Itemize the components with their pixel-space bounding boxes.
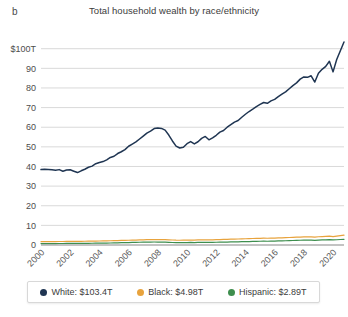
- x-tick-label: 2020: [317, 247, 338, 268]
- y-tick-label: 80: [26, 83, 36, 93]
- x-tick-label: 2016: [259, 247, 280, 268]
- chart-figure: b Total household wealth by race/ethnici…: [0, 0, 348, 317]
- legend-item-white[interactable]: White: $103.4T: [40, 288, 112, 297]
- x-tick-label: 2018: [288, 247, 309, 268]
- x-tick-label: 2006: [113, 247, 134, 268]
- y-tick-label: 70: [26, 103, 36, 113]
- chart-legend: White: $103.4T Black: $4.98T Hispanic: $…: [27, 281, 320, 303]
- gridlines: [41, 49, 344, 245]
- x-tick-label: 2012: [200, 247, 221, 268]
- legend-item-hispanic[interactable]: Hispanic: $2.89T: [228, 288, 307, 297]
- y-tick-label: 0: [31, 240, 36, 250]
- y-tick-label: 10: [26, 221, 36, 231]
- x-tick-label: 2002: [54, 247, 75, 268]
- x-tick-label: 2014: [230, 247, 251, 268]
- y-tick-label: 60: [26, 122, 36, 132]
- legend-swatch-black-icon: [137, 289, 144, 296]
- legend-swatch-white-icon: [40, 289, 47, 296]
- x-axis-tick-labels: 2000200220042006200820102012201420162018…: [25, 247, 338, 268]
- data-series-lines: [41, 42, 344, 244]
- x-tick-label: 2000: [25, 247, 46, 268]
- legend-label-hispanic: Hispanic: $2.89T: [239, 288, 307, 297]
- y-tick-label: 20: [26, 201, 36, 211]
- y-axis-tick-labels: 0102030405060708090$100T: [10, 44, 36, 250]
- y-tick-label: 40: [26, 162, 36, 172]
- x-tick-label: 2004: [84, 247, 105, 268]
- x-tick-label: 2010: [171, 247, 192, 268]
- y-tick-label: 30: [26, 181, 36, 191]
- y-tick-label: $100T: [10, 44, 36, 54]
- legend-label-white: White: $103.4T: [51, 288, 112, 297]
- x-tick-label: 2008: [142, 247, 163, 268]
- plot-area: 0102030405060708090$100T 200020022004200…: [0, 0, 348, 317]
- y-tick-label: 90: [26, 64, 36, 74]
- legend-item-black[interactable]: Black: $4.98T: [137, 288, 203, 297]
- legend-label-black: Black: $4.98T: [148, 288, 203, 297]
- legend-swatch-hispanic-icon: [228, 289, 235, 296]
- y-tick-label: 50: [26, 142, 36, 152]
